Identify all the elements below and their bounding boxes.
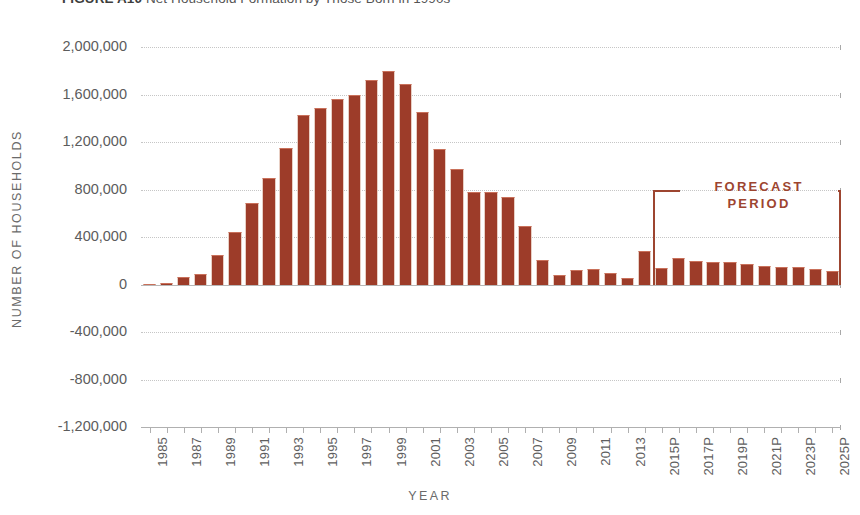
x-tick-mark <box>611 427 612 433</box>
bar-series <box>141 47 841 427</box>
bar <box>177 277 190 284</box>
x-tick-label: 2013 <box>633 437 648 467</box>
bar <box>245 203 258 285</box>
x-tick-mark <box>576 427 577 433</box>
bar <box>518 226 531 284</box>
figure-number: FIGURE A10 <box>62 0 142 6</box>
x-tick-label: 2005 <box>496 437 511 467</box>
x-tick-label: 2017P <box>701 437 716 476</box>
x-tick-mark <box>662 427 663 433</box>
x-tick-mark <box>508 427 509 433</box>
bar <box>382 71 395 285</box>
bar <box>143 284 156 285</box>
y-tick-label: -1,200,000 <box>58 418 127 434</box>
bar <box>279 148 292 285</box>
bar <box>604 273 617 284</box>
x-tick-label: 2021P <box>769 437 784 476</box>
bar <box>399 84 412 285</box>
bar <box>740 264 753 285</box>
x-tick-mark <box>713 427 714 433</box>
x-tick-mark <box>474 427 475 433</box>
y-tick-label: -800,000 <box>70 371 127 387</box>
bar <box>450 169 463 284</box>
bar <box>416 112 429 284</box>
y-axis-title: NUMBER OF HOUSEHOLDS <box>10 130 24 328</box>
y-tick-label: 400,000 <box>75 228 127 244</box>
x-tick-mark <box>593 427 594 433</box>
x-tick-mark <box>440 427 441 433</box>
bar <box>228 232 241 284</box>
x-tick-mark <box>406 427 407 433</box>
x-tick-label: 2011 <box>598 437 613 466</box>
x-tick-mark <box>764 427 765 433</box>
x-tick-mark <box>371 427 372 433</box>
x-tick-mark <box>491 427 492 433</box>
x-tick-label: 1989 <box>223 437 238 467</box>
x-tick-mark <box>201 427 202 433</box>
bar <box>160 283 173 284</box>
x-tick-label: 2019P <box>735 437 750 476</box>
bar <box>826 271 839 285</box>
x-tick-mark <box>628 427 629 433</box>
x-tick-mark <box>457 427 458 433</box>
x-axis-title: YEAR <box>0 489 860 503</box>
plot-area: 2,000,0001,600,0001,200,000800,000400,00… <box>141 47 841 427</box>
bar <box>655 268 668 285</box>
bar <box>792 267 805 285</box>
bar <box>484 192 497 285</box>
x-tick-mark <box>696 427 697 433</box>
y-tick-label: 0 <box>119 276 127 292</box>
bar <box>314 108 327 285</box>
x-tick-mark <box>235 427 236 433</box>
bar <box>621 278 634 285</box>
x-tick-mark <box>781 427 782 433</box>
x-tick-label: 1995 <box>325 437 340 467</box>
y-tick-label: 800,000 <box>75 181 127 197</box>
bar <box>467 192 480 285</box>
x-tick-mark <box>269 427 270 433</box>
x-tick-mark <box>730 427 731 433</box>
bar <box>553 275 566 285</box>
x-tick-mark <box>286 427 287 433</box>
page-title: FIGURE A10 Net Household Formation by Th… <box>62 0 450 6</box>
bar <box>501 197 514 285</box>
bar <box>365 80 378 284</box>
x-tick-label: 2007 <box>530 437 545 467</box>
x-tick-mark <box>320 427 321 433</box>
bar <box>536 260 549 285</box>
x-tick-mark <box>167 427 168 433</box>
bar <box>331 99 344 284</box>
bar <box>433 149 446 284</box>
chart-figure: FIGURE A10 Net Household Formation by Th… <box>0 0 860 515</box>
x-tick-mark <box>559 427 560 433</box>
x-tick-mark <box>542 427 543 433</box>
bar <box>297 115 310 285</box>
bar <box>570 270 583 284</box>
x-tick-label: 2025P <box>837 437 852 476</box>
x-tick-mark <box>150 427 151 433</box>
bar <box>706 262 719 285</box>
bar <box>689 261 702 285</box>
x-tick-mark <box>679 427 680 433</box>
x-tick-mark <box>184 427 185 433</box>
x-tick-mark <box>423 427 424 433</box>
x-tick-label: 2023P <box>803 437 818 476</box>
x-tick-mark <box>354 427 355 433</box>
x-tick-label: 1985 <box>155 437 170 467</box>
x-tick-mark <box>747 427 748 433</box>
y-tick-label: 1,200,000 <box>62 133 127 149</box>
x-tick-label: 2003 <box>462 437 477 467</box>
x-tick-mark <box>815 427 816 433</box>
y-tick-label: 1,600,000 <box>62 86 127 102</box>
x-tick-label: 1991 <box>257 437 272 467</box>
x-tick-label: 1987 <box>189 437 204 467</box>
x-tick-label: 1997 <box>359 437 374 467</box>
bar <box>758 266 771 285</box>
x-tick-label: 2009 <box>564 437 579 467</box>
bar <box>809 269 822 284</box>
bar <box>587 269 600 284</box>
x-tick-label: 2001 <box>428 437 443 467</box>
x-tick-mark <box>832 427 833 433</box>
bar <box>638 251 651 284</box>
x-tick-mark <box>252 427 253 433</box>
